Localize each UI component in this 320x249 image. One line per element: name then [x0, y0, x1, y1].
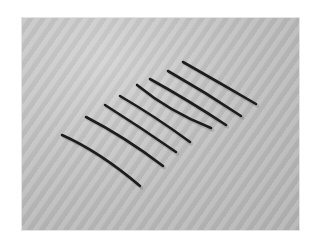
strands-layer — [0, 0, 320, 249]
strand-7 — [168, 71, 241, 116]
strand-4 — [120, 96, 190, 142]
strand-3 — [105, 105, 176, 152]
strand-8 — [183, 62, 256, 104]
